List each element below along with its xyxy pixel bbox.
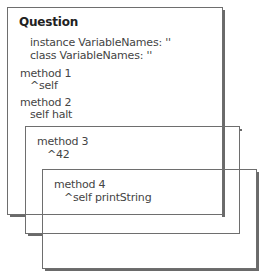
method2-body: self halt [30,109,72,121]
method3-body: ^42 [47,149,70,161]
method1-body: ^self [30,80,58,92]
instance-vars-line: instance VariableNames: '' [30,37,171,49]
method4-body: ^self printString [64,192,151,204]
method3-name: method 3 [37,136,88,148]
method4-name: method 4 [54,179,105,191]
class-title: Question [19,15,78,29]
class-vars-line: class VariableNames: '' [30,50,152,62]
